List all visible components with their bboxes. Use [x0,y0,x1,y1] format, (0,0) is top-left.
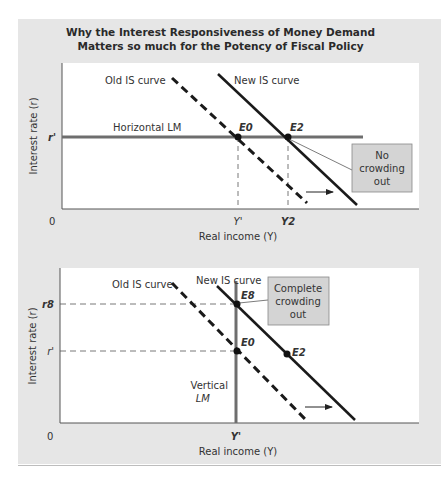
top-y-tick-r-prime: r' [48,132,56,143]
bottom-callout-line-3: out [290,309,306,320]
top-origin-label: 0 [49,216,55,227]
bottom-y-axis-label: Interest rate (r) [27,307,38,384]
bottom-y-tick-r8: r8 [42,299,54,310]
top-x-axis-label: Real income (Y) [199,231,278,242]
top-callout-line-1: No [375,150,389,161]
top-callout-line-3: out [374,176,390,187]
top-x-tick-y-prime: Y' [234,216,243,227]
top-e0-label: E0 [239,122,253,133]
bottom-new-is-label: New IS curve [196,275,261,286]
bottom-old-is-label: Old IS curve [112,279,173,290]
bottom-callout-line-2: crowding [275,296,321,307]
bottom-point-e0 [234,348,241,355]
bottom-plot-area [60,268,419,423]
bottom-x-tick-y-prime: Y' [231,431,241,442]
bottom-point-e2 [284,351,291,358]
bottom-x-axis-label: Real income (Y) [199,446,278,457]
bottom-e8-label: E8 [241,290,255,301]
top-old-is-label: Old IS curve [105,75,166,86]
top-lm-label: Horizontal LM [113,122,181,133]
bottom-e0-label: E0 [241,337,255,348]
bottom-callout-line-1: Complete [274,283,322,294]
is-lm-diagram: No crowding out Old IS curve New IS curv… [0,0,441,485]
bottom-y-tick-r-prime: r' [47,346,54,357]
top-y-axis-label: Interest rate (r) [28,97,39,174]
top-callout-line-2: crowding [359,163,405,174]
bottom-divider [18,465,441,466]
top-x-tick-y2: Y2 [281,216,295,227]
bottom-origin-label: 0 [47,431,53,442]
bottom-chart: Complete crowding out Old IS curve New I… [27,268,419,457]
bottom-e2-label: E2 [292,347,306,358]
top-chart: No crowding out Old IS curve New IS curv… [28,63,419,242]
top-point-e0 [235,134,242,141]
top-e2-label: E2 [290,122,304,133]
bottom-point-e8 [234,301,241,308]
top-new-is-label: New IS curve [234,75,299,86]
bottom-lm-label-line-1: Vertical [191,380,228,391]
bottom-lm-label-line-2: LM [196,393,211,404]
